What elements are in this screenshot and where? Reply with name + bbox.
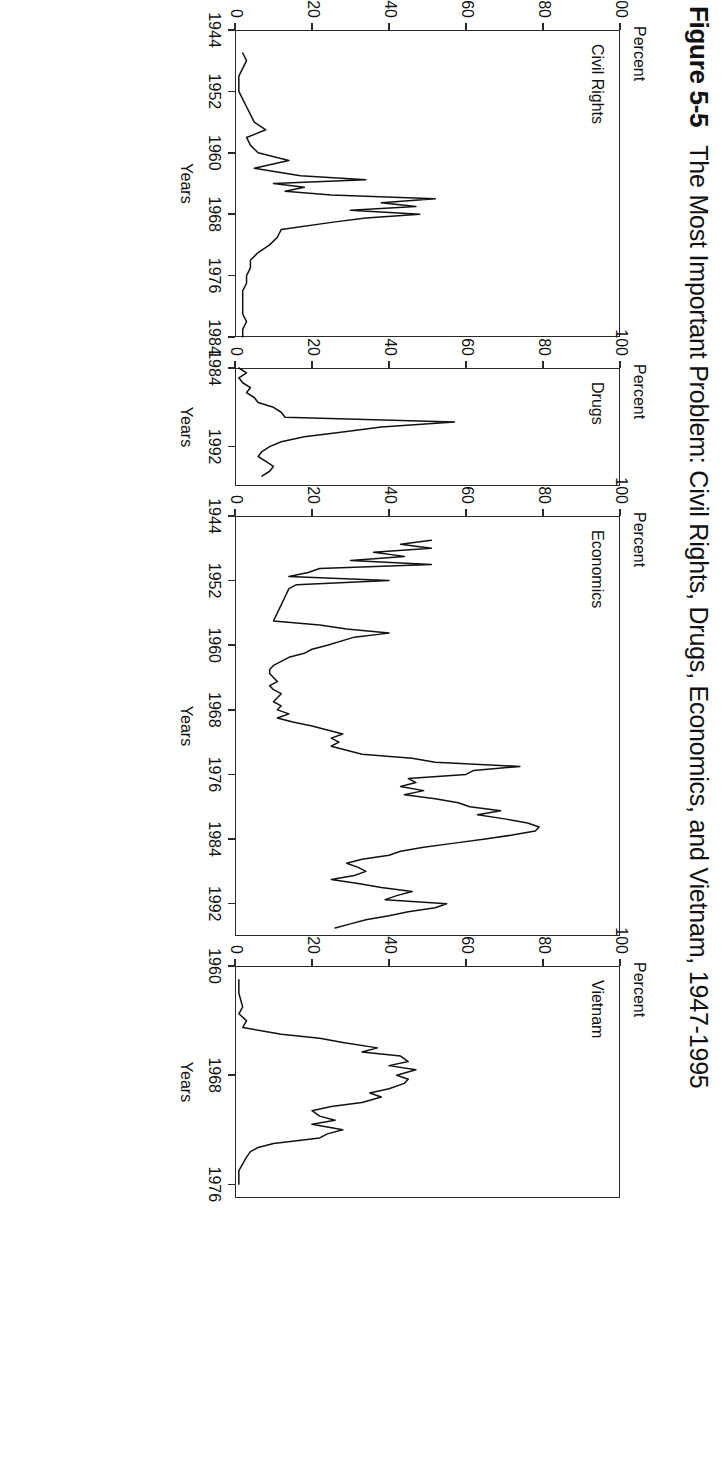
- x-axis-title: Years: [177, 368, 195, 486]
- x-axis-title: Years: [177, 966, 195, 1198]
- y-tick-mark: [465, 509, 467, 516]
- x-tick-label: 1952: [205, 561, 223, 601]
- x-axis-title: Years: [177, 30, 195, 337]
- y-tick-label: 80: [535, 0, 553, 18]
- y-tick-label: 80: [535, 464, 553, 504]
- y-tick-mark: [542, 23, 544, 30]
- y-tick-mark: [388, 361, 390, 368]
- x-tick-mark: [228, 580, 235, 582]
- y-tick-label: 60: [458, 914, 476, 954]
- x-tick-mark: [228, 838, 235, 840]
- y-tick-label: 20: [304, 0, 322, 18]
- y-tick-label: 80: [535, 316, 553, 356]
- figure-title-row: Figure 5-5 The Most Important Problem: C…: [683, 6, 714, 1089]
- x-tick-mark: [228, 774, 235, 776]
- y-tick-mark: [388, 23, 390, 30]
- y-tick-mark: [542, 959, 544, 966]
- x-tick-label: 1960: [205, 946, 223, 986]
- x-tick-mark: [228, 709, 235, 711]
- y-tick-mark: [311, 959, 313, 966]
- y-tick-label: 20: [304, 464, 322, 504]
- panel-drugs: PercentDrugs02040608010019841992Years: [235, 368, 620, 486]
- x-tick-mark: [228, 275, 235, 277]
- y-tick-label: 0: [227, 464, 245, 504]
- x-tick-label: 1960: [205, 133, 223, 173]
- x-tick-mark: [228, 91, 235, 93]
- y-tick-mark: [388, 959, 390, 966]
- x-tick-mark: [228, 1074, 235, 1076]
- y-tick-label: 40: [381, 914, 399, 954]
- x-tick-label: 1976: [205, 754, 223, 794]
- y-tick-label: 100: [612, 464, 630, 504]
- y-tick-mark: [619, 509, 621, 516]
- y-axis-title: Percent: [630, 962, 648, 1017]
- x-tick-label: 1944: [205, 10, 223, 50]
- x-tick-mark: [228, 1184, 235, 1186]
- x-tick-label: 1968: [205, 194, 223, 234]
- figure-rotation-wrapper: Figure 5-5 The Most Important Problem: C…: [0, 0, 724, 1482]
- series-line: [239, 980, 416, 1185]
- y-tick-label: 20: [304, 316, 322, 356]
- x-tick-mark: [228, 903, 235, 905]
- y-tick-mark: [619, 361, 621, 368]
- y-tick-label: 20: [304, 914, 322, 954]
- y-tick-mark: [619, 23, 621, 30]
- panel-civil-rights: PercentCivil Rights020406080100194419521…: [235, 30, 620, 337]
- y-tick-label: 40: [381, 0, 399, 18]
- y-tick-mark: [311, 509, 313, 516]
- y-tick-label: 100: [612, 316, 630, 356]
- series-plot: [235, 966, 620, 1198]
- series-line: [239, 368, 455, 476]
- x-tick-label: 1968: [205, 1055, 223, 1095]
- y-tick-label: 100: [612, 914, 630, 954]
- x-tick-label: 1960: [205, 625, 223, 665]
- x-tick-label: 1952: [205, 71, 223, 111]
- series-line: [270, 540, 540, 928]
- y-tick-label: 60: [458, 0, 476, 18]
- y-tick-mark: [542, 361, 544, 368]
- x-tick-label: 1976: [205, 256, 223, 296]
- y-tick-label: 0: [227, 316, 245, 356]
- panel-vietnam: PercentVietnam020406080100196019681976Ye…: [235, 966, 620, 1198]
- y-tick-label: 40: [381, 464, 399, 504]
- x-tick-label: 1984: [205, 348, 223, 388]
- y-axis-title: Percent: [630, 26, 648, 81]
- y-tick-label: 60: [458, 316, 476, 356]
- y-tick-mark: [619, 959, 621, 966]
- x-tick-mark: [228, 644, 235, 646]
- x-tick-label: 1944: [205, 496, 223, 536]
- panel-economics: PercentEconomics020406080100194419521960…: [235, 516, 620, 936]
- y-tick-mark: [542, 509, 544, 516]
- y-tick-mark: [311, 361, 313, 368]
- x-tick-mark: [228, 446, 235, 448]
- x-tick-label: 1984: [205, 819, 223, 859]
- x-tick-mark: [228, 515, 235, 517]
- x-tick-label: 1968: [205, 690, 223, 730]
- figure-title: The Most Important Problem: Civil Rights…: [684, 145, 713, 1088]
- y-tick-label: 80: [535, 914, 553, 954]
- figure-number: Figure 5-5: [683, 6, 714, 127]
- x-tick-label: 1992: [205, 427, 223, 467]
- y-tick-mark: [388, 509, 390, 516]
- y-axis-title: Percent: [630, 512, 648, 567]
- x-axis-title: Years: [177, 516, 195, 936]
- x-tick-mark: [228, 965, 235, 967]
- x-tick-mark: [228, 367, 235, 369]
- series-plot: [235, 516, 620, 936]
- y-tick-mark: [311, 23, 313, 30]
- y-tick-mark: [465, 361, 467, 368]
- y-tick-mark: [465, 23, 467, 30]
- series-line: [239, 53, 435, 337]
- x-tick-mark: [228, 152, 235, 154]
- y-tick-label: 60: [458, 464, 476, 504]
- x-tick-mark: [228, 29, 235, 31]
- y-tick-label: 0: [227, 0, 245, 18]
- y-axis-title: Percent: [630, 364, 648, 419]
- y-tick-label: 100: [612, 0, 630, 18]
- x-tick-mark: [228, 213, 235, 215]
- series-plot: [235, 368, 620, 486]
- x-tick-label: 1992: [205, 884, 223, 924]
- figure-canvas: Figure 5-5 The Most Important Problem: C…: [0, 0, 724, 1482]
- series-plot: [235, 30, 620, 337]
- y-tick-label: 0: [227, 914, 245, 954]
